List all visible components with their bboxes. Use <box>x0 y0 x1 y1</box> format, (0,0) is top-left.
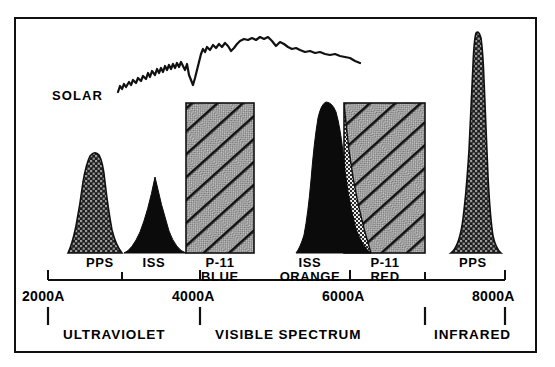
axis-tick-label-4000a: 4000A <box>172 288 215 304</box>
axis-tick-label-8000a: 8000A <box>472 288 515 304</box>
label-p11-red-line2: RED <box>356 269 414 284</box>
solar-curve-label: SOLAR <box>52 88 103 103</box>
band-label-ultraviolet: ULTRAVIOLET <box>63 327 165 342</box>
label-p11-blue-line1: P-11 <box>192 255 248 270</box>
label-pps-ultraviolet: PPS <box>74 255 126 270</box>
spectral-response-figure: SOLAR PPS ISS P-11 BLUE ISS ORANGE P-11 … <box>0 0 555 367</box>
label-pps-infrared: PPS <box>447 255 499 270</box>
label-iss-orange-line1: ISS <box>278 255 342 270</box>
axis-tick-label-2000a: 2000A <box>22 288 65 304</box>
axis-tick-label-6000a: 6000A <box>322 288 365 304</box>
label-iss-orange-line2: ORANGE <box>266 269 354 284</box>
label-p11-red-line1: P-11 <box>356 255 414 270</box>
band-label-infrared: INFRARED <box>434 327 511 342</box>
figure-frame <box>14 17 537 353</box>
label-iss: ISS <box>130 255 178 270</box>
label-p11-blue-line2: BLUE <box>192 269 248 284</box>
band-label-visible-spectrum: VISIBLE SPECTRUM <box>215 327 361 342</box>
